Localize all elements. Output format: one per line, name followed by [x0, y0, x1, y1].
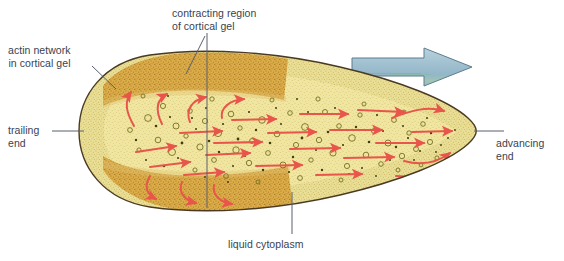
label-trailing-end: trailing end — [8, 124, 39, 149]
cell-diagram — [0, 0, 564, 261]
label-advancing-end: advancing end — [496, 137, 544, 162]
label-actin-network: actin network in cortical gel — [8, 44, 71, 69]
amoeboid-locomotion-figure: actin network in cortical gel trailing e… — [0, 0, 564, 261]
label-contracting-region: contracting region of cortical gel — [172, 7, 256, 32]
label-liquid-cytoplasm: liquid cytoplasm — [228, 238, 304, 251]
